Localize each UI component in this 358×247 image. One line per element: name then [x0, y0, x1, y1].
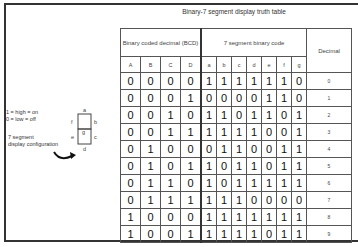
bit-cell: 0 [181, 73, 202, 90]
bit-cell: 1 [181, 90, 202, 107]
bit-cell: 1 [262, 107, 277, 124]
decimal-cell: 3 [307, 124, 352, 141]
config-caption-line1: 7 segment [8, 134, 58, 141]
col-D: D [181, 57, 202, 73]
svg-text:d: d [83, 146, 86, 152]
col-a: a [201, 57, 217, 73]
bit-cell: 1 [232, 124, 247, 141]
bit-cell: 0 [121, 158, 141, 175]
bit-cell: 0 [201, 141, 217, 158]
bit-cell: 1 [141, 141, 161, 158]
bit-cell: 1 [277, 209, 292, 226]
bit-cell: 1 [161, 107, 181, 124]
bit-cell: 1 [262, 90, 277, 107]
bit-cell: 0 [262, 226, 277, 243]
table-row: 011010111116 [121, 175, 352, 192]
col-g: g [292, 57, 307, 73]
bit-cell: 0 [141, 73, 161, 90]
bit-cell: 0 [247, 192, 262, 209]
svg-text:b: b [94, 119, 97, 125]
bit-cell: 0 [262, 124, 277, 141]
bit-cell: 0 [161, 90, 181, 107]
bit-cell: 0 [277, 192, 292, 209]
bit-cell: 1 [217, 192, 232, 209]
col-C: C [161, 57, 181, 73]
bit-cell: 1 [181, 226, 202, 243]
bit-cell: 0 [262, 158, 277, 175]
bit-cell: 0 [141, 107, 161, 124]
config-caption-line2: display configuration [8, 141, 58, 148]
col-b: b [217, 57, 232, 73]
bit-cell: 0 [262, 192, 277, 209]
svg-text:a: a [83, 107, 87, 113]
col-A: A [121, 57, 141, 73]
bit-cell: 1 [201, 73, 217, 90]
svg-text:c: c [94, 134, 97, 140]
bit-cell: 1 [277, 73, 292, 90]
bit-cell: 0 [247, 141, 262, 158]
bit-cell: 1 [121, 209, 141, 226]
bit-cell: 1 [232, 175, 247, 192]
bit-cell: 0 [262, 141, 277, 158]
bit-cell: 1 [161, 124, 181, 141]
bit-cell: 1 [262, 209, 277, 226]
bit-cell: 0 [161, 226, 181, 243]
table-row: 000100001101 [121, 90, 352, 107]
svg-text:f: f [71, 119, 73, 125]
bit-cell: 1 [201, 209, 217, 226]
bit-cell: 1 [292, 124, 307, 141]
svg-text:g: g [82, 129, 85, 135]
config-caption: 7 segment display configuration [8, 134, 58, 148]
bit-cell: 0 [181, 107, 202, 124]
col-B: B [141, 57, 161, 73]
curved-arrow-icon [52, 148, 78, 164]
bit-cell: 0 [292, 192, 307, 209]
bit-cell: 1 [217, 124, 232, 141]
bit-cell: 0 [161, 158, 181, 175]
bit-cell: 0 [121, 175, 141, 192]
bit-cell: 1 [292, 141, 307, 158]
table-body: 0000111111000001000011010010110110120011… [121, 73, 352, 243]
bit-cell: 0 [217, 90, 232, 107]
bit-cell: 1 [217, 226, 232, 243]
bit-cell: 0 [141, 90, 161, 107]
bit-cell: 0 [232, 107, 247, 124]
bit-cell: 1 [232, 192, 247, 209]
bit-cell: 1 [217, 107, 232, 124]
bit-cell: 0 [121, 124, 141, 141]
bit-cell: 0 [121, 107, 141, 124]
bit-cell: 1 [232, 209, 247, 226]
decimal-cell: 1 [307, 90, 352, 107]
bit-cell: 1 [292, 226, 307, 243]
bit-cell: 0 [181, 209, 202, 226]
col-f: f [277, 57, 292, 73]
bit-cell: 1 [121, 226, 141, 243]
decimal-cell: 4 [307, 141, 352, 158]
bit-cell: 0 [217, 158, 232, 175]
bit-cell: 1 [247, 158, 262, 175]
bit-cell: 1 [277, 175, 292, 192]
bit-cell: 1 [217, 141, 232, 158]
bit-cell: 0 [141, 124, 161, 141]
bit-cell: 1 [277, 158, 292, 175]
decimal-cell: 9 [307, 226, 352, 243]
bit-cell: 0 [292, 90, 307, 107]
bit-cell: 0 [247, 90, 262, 107]
bit-cell: 0 [121, 73, 141, 90]
bit-cell: 1 [292, 158, 307, 175]
table-row: 000011111100 [121, 73, 352, 90]
bit-cell: 1 [181, 124, 202, 141]
table-row: 001111110013 [121, 124, 352, 141]
bit-cell: 1 [217, 209, 232, 226]
col-d: d [247, 57, 262, 73]
bit-cell: 1 [141, 158, 161, 175]
bit-cell: 1 [247, 124, 262, 141]
decimal-cell: 6 [307, 175, 352, 192]
bit-cell: 0 [141, 209, 161, 226]
bit-cell: 0 [181, 175, 202, 192]
decimal-cell: 0 [307, 73, 352, 90]
bit-cell: 1 [232, 73, 247, 90]
bit-cell: 0 [217, 175, 232, 192]
table-row: 001011011012 [121, 107, 352, 124]
legend: 1 = high = on 0 = low = off [6, 109, 38, 123]
